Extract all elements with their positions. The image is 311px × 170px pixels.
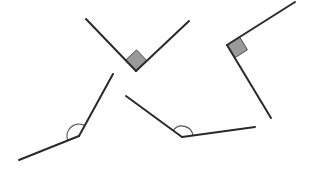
angle-figure-svg <box>0 0 311 170</box>
figure-background <box>0 0 311 170</box>
angle-figure-canvas <box>0 0 311 170</box>
